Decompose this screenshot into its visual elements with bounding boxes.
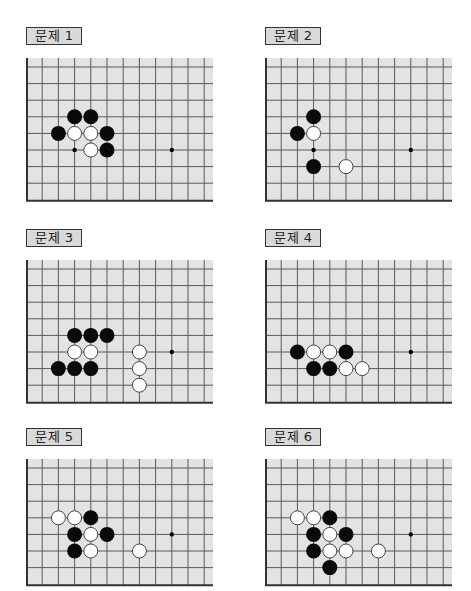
black-stone (51, 126, 66, 141)
black-stone (67, 544, 82, 559)
problem-label: 문제 2 (265, 27, 321, 45)
white-stone (323, 527, 337, 541)
white-stone (307, 511, 321, 525)
problem-label: 문제 5 (26, 428, 82, 446)
star-point (170, 532, 174, 536)
problem-label: 문제 4 (265, 229, 321, 247)
go-board (26, 58, 213, 203)
black-stone (306, 109, 321, 124)
star-point (170, 148, 174, 152)
black-stone (322, 510, 337, 525)
white-stone (290, 511, 304, 525)
black-stone (100, 126, 115, 141)
white-stone (68, 345, 82, 359)
black-stone (67, 109, 82, 124)
white-stone (132, 544, 146, 558)
white-stone (339, 362, 353, 376)
black-stone (51, 361, 66, 376)
white-stone (84, 143, 98, 157)
white-stone (132, 378, 146, 392)
white-stone (339, 544, 353, 558)
white-stone (84, 544, 98, 558)
white-stone (323, 544, 337, 558)
black-stone (100, 328, 115, 343)
star-point (409, 148, 413, 152)
black-stone (306, 361, 321, 376)
black-stone (67, 328, 82, 343)
white-stone (84, 527, 98, 541)
go-board (26, 459, 213, 587)
black-stone (322, 361, 337, 376)
white-stone (84, 345, 98, 359)
black-stone (339, 345, 354, 360)
white-stone (84, 126, 98, 140)
black-stone (67, 361, 82, 376)
black-stone (83, 109, 98, 124)
problem-label: 문제 1 (26, 27, 82, 45)
white-stone (307, 345, 321, 359)
star-point (409, 532, 413, 536)
go-board (26, 260, 213, 405)
white-stone (51, 511, 65, 525)
go-board (265, 459, 452, 587)
black-stone (67, 527, 82, 542)
go-board (265, 58, 452, 203)
black-stone (100, 143, 115, 158)
white-stone (371, 544, 385, 558)
black-stone (322, 560, 337, 575)
star-point (170, 350, 174, 354)
white-stone (339, 160, 353, 174)
black-stone (83, 361, 98, 376)
black-stone (83, 510, 98, 525)
white-stone (68, 126, 82, 140)
star-point (72, 148, 76, 152)
black-stone (290, 126, 305, 141)
white-stone (323, 345, 337, 359)
white-stone (307, 126, 321, 140)
go-board (265, 260, 452, 405)
white-stone (132, 362, 146, 376)
star-point (409, 350, 413, 354)
black-stone (306, 544, 321, 559)
problem-label: 문제 6 (265, 428, 321, 446)
white-stone (355, 362, 369, 376)
white-stone (132, 345, 146, 359)
black-stone (83, 328, 98, 343)
black-stone (306, 527, 321, 542)
black-stone (290, 345, 305, 360)
star-point (311, 148, 315, 152)
black-stone (339, 527, 354, 542)
black-stone (306, 159, 321, 174)
problem-label: 문제 3 (26, 229, 82, 247)
white-stone (68, 511, 82, 525)
black-stone (100, 527, 115, 542)
